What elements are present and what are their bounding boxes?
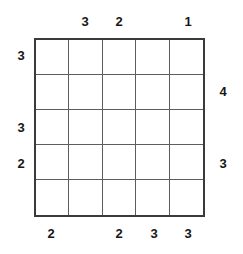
puzzle-board: 3 2 1 3 3 2 4 3 2 2 3 3 [0, 0, 243, 254]
clue-left-row-1: 3 [12, 48, 30, 62]
grid-cell[interactable] [136, 180, 169, 215]
grid-cell[interactable] [170, 40, 203, 75]
grid-cell[interactable] [36, 110, 69, 145]
clue-top-col-5: 1 [179, 14, 197, 28]
grid-cell[interactable] [103, 145, 136, 180]
clue-bottom-col-3: 2 [110, 226, 128, 240]
clue-right-row-2: 4 [214, 84, 232, 98]
grid-cell[interactable] [36, 75, 69, 110]
grid-cell[interactable] [103, 75, 136, 110]
clue-top-col-3: 2 [110, 14, 128, 28]
grid-cell[interactable] [103, 40, 136, 75]
grid-cell[interactable] [69, 180, 102, 215]
grid-cell[interactable] [69, 40, 102, 75]
grid-cell[interactable] [103, 110, 136, 145]
grid-cell[interactable] [170, 145, 203, 180]
grid-cell[interactable] [170, 75, 203, 110]
grid-cell[interactable] [69, 110, 102, 145]
clue-bottom-col-5: 3 [179, 226, 197, 240]
grid-cell[interactable] [69, 145, 102, 180]
grid-cell[interactable] [36, 40, 69, 75]
grid-cell[interactable] [170, 180, 203, 215]
grid-cell[interactable] [103, 180, 136, 215]
puzzle-grid [34, 38, 205, 217]
clue-bottom-col-1: 2 [42, 226, 60, 240]
grid-cell[interactable] [69, 75, 102, 110]
grid-cell[interactable] [136, 40, 169, 75]
grid-cell[interactable] [136, 145, 169, 180]
clue-left-row-4: 2 [12, 156, 30, 170]
clue-right-row-4: 3 [214, 156, 232, 170]
grid-cell[interactable] [36, 145, 69, 180]
grid-cell[interactable] [36, 180, 69, 215]
clue-top-col-2: 3 [76, 14, 94, 28]
clue-left-row-3: 3 [12, 120, 30, 134]
grid-cell[interactable] [170, 110, 203, 145]
clue-bottom-col-4: 3 [145, 226, 163, 240]
grid-cell[interactable] [136, 75, 169, 110]
grid-cell[interactable] [136, 110, 169, 145]
